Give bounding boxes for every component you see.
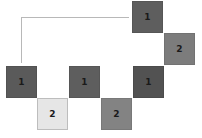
tile-label: 1 [18,77,24,87]
tile-row-1c: 1 [133,66,164,98]
tile-label: 1 [81,77,87,87]
tile-row-1a: 1 [6,66,37,98]
tile-label: 1 [145,77,151,87]
tile-label: 2 [176,44,182,54]
tile-top-1: 1 [132,1,163,33]
tile-row-2b: 2 [101,98,132,130]
tile-row-2a: 2 [37,98,68,130]
tile-label: 1 [144,12,150,22]
tile-label: 2 [113,109,119,119]
connector-vertical [21,17,22,63]
connector-horizontal [21,17,129,18]
tile-top-2: 2 [164,33,195,65]
tile-row-1b: 1 [69,66,100,98]
tile-label: 2 [49,109,55,119]
